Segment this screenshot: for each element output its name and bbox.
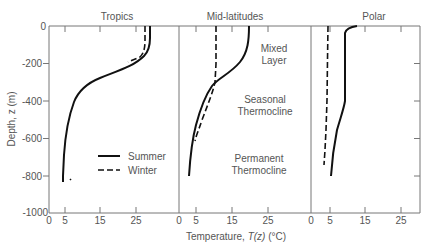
y-tick-800: -800: [22, 171, 42, 182]
y-axis-ticks: [43, 64, 420, 177]
y-tick-1000: -1000: [22, 207, 48, 218]
legend-winter-label: Winter: [128, 165, 158, 176]
polar-summer-line: [331, 26, 357, 176]
x-axis-ticks: [65, 26, 401, 213]
x-tick-0: 0: [46, 215, 52, 226]
x-tick-0: 0: [176, 215, 182, 226]
x-tick-15: 15: [226, 215, 238, 226]
x-tick-15: 15: [359, 215, 371, 226]
x-tick-15: 15: [94, 215, 106, 226]
legend-summer-label: Summer: [128, 151, 166, 162]
annotation-mixed-layer-2: Layer: [261, 55, 287, 66]
y-axis-tick-labels: 0 -200 -400 -600 -800 -1000: [22, 21, 48, 218]
x-axis-tick-labels: 0 5 15 25 0 5 15 25 0 5 15 25: [46, 215, 407, 226]
legend: Summer Winter: [98, 151, 166, 176]
annotations: Mixed Layer Seasonal Thermocline Permane…: [231, 43, 292, 176]
x-tick-0: 0: [308, 215, 314, 226]
annotation-mixed-layer: Mixed: [261, 43, 288, 54]
x-tick-25: 25: [130, 215, 142, 226]
annotation-seasonal-thermocline-2: Thermocline: [237, 106, 292, 117]
x-tick-25: 25: [262, 215, 274, 226]
ocean-temperature-profile-chart: 0 -200 -400 -600 -800 -1000 Depth, z (m)…: [0, 0, 432, 245]
panel-title-mid-latitudes: Mid-latitudes: [207, 11, 264, 22]
polar-winter-line: [324, 26, 328, 165]
x-tick-25: 25: [395, 215, 407, 226]
x-tick-5: 5: [327, 215, 333, 226]
y-tick-200: -200: [22, 58, 42, 69]
y-tick-600: -600: [22, 133, 42, 144]
panel-title-polar: Polar: [362, 11, 386, 22]
tropics-winter-deep-line: [70, 179, 71, 180]
y-tick-0: 0: [40, 21, 46, 32]
panel-title-tropics: Tropics: [101, 11, 133, 22]
x-axis-label: Temperature, T(z) (°C): [186, 231, 286, 242]
annotation-seasonal-thermocline: Seasonal: [244, 94, 286, 105]
annotation-permanent-thermocline: Permanent: [235, 153, 284, 164]
polar-curves: [324, 26, 357, 176]
plot-frame: [49, 26, 420, 213]
y-tick-400: -400: [22, 96, 42, 107]
x-tick-5: 5: [193, 215, 199, 226]
annotation-permanent-thermocline-2: Thermocline: [231, 165, 286, 176]
y-axis-label: Depth, z (m): [6, 91, 17, 146]
x-tick-5: 5: [62, 215, 68, 226]
